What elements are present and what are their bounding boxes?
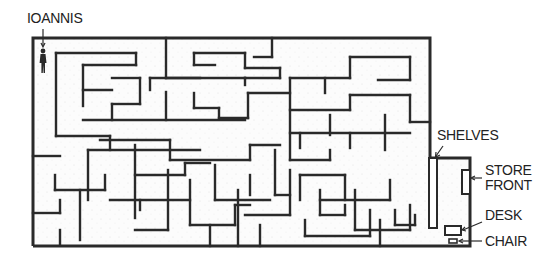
- label-shelves: SHELVES: [437, 128, 498, 143]
- maze-diagram: IOANNIS SHELVES STORE FRONT DESK CHAIR: [0, 0, 548, 265]
- label-store-front-line2: FRONT: [485, 178, 532, 193]
- chair: [449, 239, 457, 243]
- desk: [445, 226, 461, 235]
- label-store-front-line1: STORE: [485, 163, 531, 178]
- shelves: [429, 158, 437, 228]
- label-ioannis: IOANNIS: [27, 11, 82, 26]
- label-chair: CHAIR: [485, 234, 527, 249]
- label-desk: DESK: [485, 208, 522, 223]
- shelves-arrow-icon: [436, 146, 443, 156]
- store-front: [462, 170, 470, 194]
